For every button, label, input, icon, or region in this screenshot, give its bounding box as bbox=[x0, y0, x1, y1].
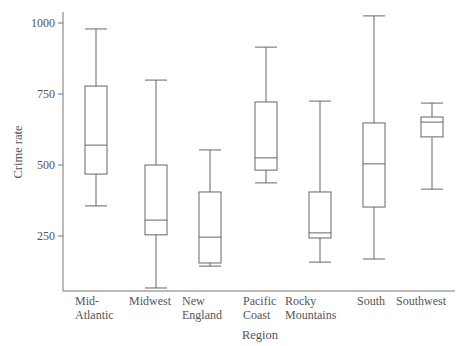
x-axis-title: Region bbox=[242, 328, 279, 342]
y-tick-label: 500 bbox=[37, 158, 55, 172]
y-tick-label: 250 bbox=[37, 229, 55, 243]
x-category-label: Mid-Atlantic bbox=[75, 294, 114, 322]
iqr-box bbox=[363, 123, 385, 207]
iqr-box bbox=[145, 165, 167, 235]
y-tick-label: 1000 bbox=[31, 16, 55, 30]
y-axis-title: Crime rate bbox=[11, 125, 25, 179]
box-new-england bbox=[199, 150, 221, 266]
box-midwest bbox=[145, 80, 167, 288]
box-mid-atlantic bbox=[85, 29, 107, 206]
x-category-label: NewEngland bbox=[182, 294, 222, 322]
box-rocky-mountains bbox=[309, 101, 331, 262]
boxes bbox=[85, 16, 443, 288]
x-category-label: South bbox=[357, 294, 385, 308]
y-axis: 2505007501000 bbox=[31, 12, 63, 291]
iqr-box bbox=[309, 192, 331, 238]
iqr-box bbox=[421, 117, 443, 137]
x-axis: Mid-AtlanticMidwestNewEnglandPacificCoas… bbox=[63, 291, 455, 322]
box-south bbox=[363, 16, 385, 259]
x-category-label: Southwest bbox=[396, 294, 447, 308]
box-southwest bbox=[421, 103, 443, 189]
x-category-label: PacificCoast bbox=[243, 294, 276, 322]
iqr-box bbox=[199, 192, 221, 263]
y-tick-label: 750 bbox=[37, 87, 55, 101]
x-category-label: RockyMountains bbox=[285, 294, 337, 322]
box-plot: 2505007501000 Mid-AtlanticMidwestNewEngl… bbox=[0, 0, 461, 346]
iqr-box bbox=[85, 86, 107, 174]
x-category-label: Midwest bbox=[129, 294, 172, 308]
iqr-box bbox=[255, 102, 277, 170]
box-pacific-coast bbox=[255, 47, 277, 183]
